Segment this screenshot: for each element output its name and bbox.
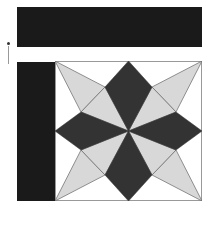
marker-line — [8, 46, 9, 64]
left-bar — [17, 62, 55, 201]
top-bar — [17, 7, 202, 47]
slider-marker[interactable] — [7, 42, 10, 64]
marker-dot-icon — [7, 42, 10, 45]
star-tile — [55, 61, 202, 201]
